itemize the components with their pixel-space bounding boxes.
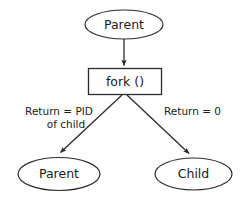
fork-flow-diagram: Parent fork () Parent Child Return = PID… xyxy=(0,0,248,201)
node-fork-call[interactable]: fork () xyxy=(89,69,162,95)
edge-label-fork-to-parent: Return = PID of child xyxy=(25,105,93,130)
node-child-bottom-label: Child xyxy=(178,166,210,181)
edge-label-fork-to-parent-line1: Return = PID xyxy=(25,105,93,117)
edge-label-fork-to-parent-line2: of child xyxy=(47,118,85,130)
node-parent-top-label: Parent xyxy=(104,17,144,32)
edge-label-fork-to-child: Return = 0 xyxy=(164,105,221,117)
node-parent-top[interactable]: Parent xyxy=(85,10,163,39)
node-parent-bottom[interactable]: Parent xyxy=(18,158,100,191)
node-child-bottom[interactable]: Child xyxy=(155,158,232,190)
node-fork-call-label: fork () xyxy=(106,74,144,89)
diagram-canvas: Parent fork () Parent Child Return = PID… xyxy=(0,0,248,201)
edge-label-fork-to-child-line1: Return = 0 xyxy=(164,105,221,117)
node-parent-bottom-label: Parent xyxy=(39,166,79,181)
